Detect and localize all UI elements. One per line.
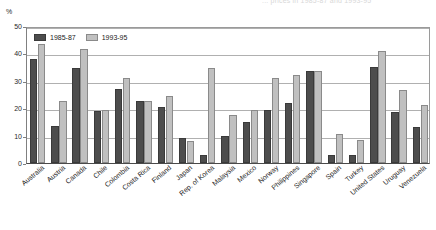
y-axis-unit-label: % [6,8,12,15]
bar [72,68,79,163]
y-tick-label-40: 40 [0,50,22,57]
bar-group [30,28,45,163]
bar [357,140,364,163]
y-tick-mark-20 [23,109,26,110]
y-tick-label-30: 30 [0,78,22,85]
bar [30,59,37,163]
bar-group [136,28,151,163]
bar [378,51,385,163]
y-tick-label-20: 20 [0,105,22,112]
bar-group [115,28,130,163]
bar [115,89,122,163]
bar [80,49,87,163]
bar-group [179,28,194,163]
legend-swatch-icon-series-1 [86,34,98,41]
bar-group [200,28,215,163]
bar-chart: ... prices in 1985-87 and 1993-95 % 0102… [0,0,436,230]
bar [208,68,215,163]
bar-group [370,28,385,163]
y-tick-mark-30 [23,82,26,83]
x-axis-tick-labels: AustraliaAustriaCanadaChileColombiaCosta… [26,164,430,230]
bar-group [285,28,300,163]
top-caption: ... prices in 1985-87 and 1993-95 [262,0,436,7]
y-tick-mark-10 [23,137,26,138]
y-tick-label-0: 0 [0,160,22,167]
legend: 1985-87 1993-95 [34,32,127,43]
bar [370,67,377,163]
legend-swatch-icon-series-0 [34,34,46,41]
bar-group [72,28,87,163]
bar-group [264,28,279,163]
bar [272,78,279,163]
bar-group [94,28,109,163]
bars-layer [27,28,429,163]
legend-label-series-0: 1985-87 [50,34,76,41]
bar-group [51,28,66,163]
y-tick-mark-50 [23,27,26,28]
legend-label-series-1: 1993-95 [102,34,128,41]
plot-area [26,27,430,164]
bar [123,78,130,163]
y-tick-label-10: 10 [0,133,22,140]
y-tick-label-50: 50 [0,23,22,30]
bar [38,44,45,163]
legend-item-series-0: 1985-87 [34,34,76,41]
y-tick-mark-40 [23,54,26,55]
bar-group [349,28,364,163]
legend-item-series-1: 1993-95 [86,34,128,41]
